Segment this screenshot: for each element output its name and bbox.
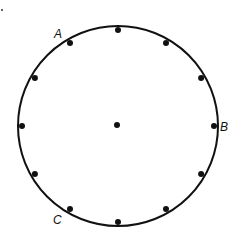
perimeter-dot bbox=[32, 75, 38, 81]
perimeter-dot bbox=[115, 27, 121, 33]
perimeter-dot bbox=[19, 123, 25, 129]
center-dot bbox=[114, 122, 120, 128]
label-a: A bbox=[53, 27, 62, 41]
perimeter-dot bbox=[211, 123, 217, 129]
perimeter-dot bbox=[67, 40, 73, 46]
label-b: B bbox=[220, 120, 228, 134]
perimeter-dot bbox=[115, 219, 121, 225]
perimeter-dot bbox=[198, 171, 204, 177]
clock-circle-diagram: A B C bbox=[0, 0, 236, 250]
perimeter-dot bbox=[163, 40, 169, 46]
label-c: C bbox=[53, 213, 62, 227]
perimeter-dot bbox=[163, 206, 169, 212]
perimeter-dot bbox=[32, 171, 38, 177]
perimeter-dot bbox=[198, 75, 204, 81]
perimeter-dot bbox=[67, 206, 73, 212]
corner-mark bbox=[1, 9, 3, 11]
